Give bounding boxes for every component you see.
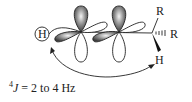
hashed-bond bbox=[156, 30, 165, 36]
p-orbital-2 bbox=[93, 6, 145, 62]
coupling-arrow bbox=[52, 50, 151, 77]
bond-r-top bbox=[152, 18, 158, 33]
caption-text: = 2 to 4 Hz bbox=[18, 81, 75, 95]
arrowhead-left bbox=[50, 47, 55, 54]
label-h-left: H bbox=[38, 28, 47, 40]
label-h-wedge: H bbox=[155, 54, 164, 66]
coupling-caption: 4J = 2 to 4 Hz bbox=[9, 80, 75, 96]
wedge-bond bbox=[152, 33, 161, 52]
arrowhead-right bbox=[148, 64, 155, 69]
label-r-top: R bbox=[156, 5, 164, 17]
label-r-hashed: R bbox=[170, 28, 178, 40]
